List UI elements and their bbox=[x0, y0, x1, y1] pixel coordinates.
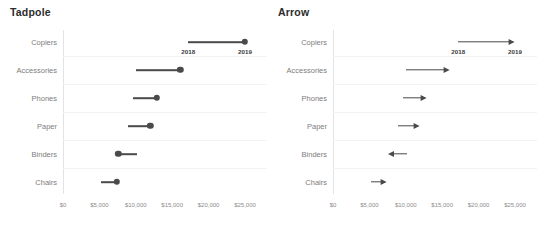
series-mark-binders bbox=[0, 147, 270, 161]
year-label-start: 2018 bbox=[451, 48, 465, 55]
arrow-head-left bbox=[388, 151, 394, 157]
arrow-head-right bbox=[444, 67, 450, 73]
x-tick-label: $10,000 bbox=[395, 202, 417, 208]
series-mark-accessories bbox=[270, 63, 540, 77]
gridline bbox=[333, 168, 537, 169]
series-mark-phones bbox=[0, 91, 270, 105]
gridline bbox=[333, 84, 537, 85]
year-label-end: 2019 bbox=[238, 48, 252, 55]
arrow-shaft bbox=[406, 69, 445, 70]
tadpole-stem bbox=[136, 69, 180, 71]
arrow-shaft bbox=[403, 97, 422, 98]
chart-panel-arrow: Arrow CopiersAccessoriesPhonesPaperBinde… bbox=[270, 0, 540, 227]
arrow-head-right bbox=[414, 123, 420, 129]
gridline bbox=[63, 112, 267, 113]
x-tick-label: $15,000 bbox=[431, 202, 453, 208]
arrow-shaft bbox=[398, 125, 416, 126]
plot-area-tadpole: CopiersAccessoriesPhonesPaperBindersChai… bbox=[0, 22, 270, 227]
series-mark-chairs bbox=[0, 175, 270, 189]
tadpole-head-dot bbox=[147, 123, 153, 129]
series-mark-paper bbox=[270, 119, 540, 133]
series-mark-accessories bbox=[0, 63, 270, 77]
charts-board: Tadpole CopiersAccessoriesPhonesPaperBin… bbox=[0, 0, 540, 227]
series-mark-paper bbox=[0, 119, 270, 133]
gridline bbox=[63, 168, 267, 169]
arrow-head-right bbox=[421, 95, 427, 101]
gridline bbox=[63, 56, 267, 57]
chart-title-arrow: Arrow bbox=[278, 6, 309, 18]
tadpole-stem bbox=[188, 41, 245, 43]
arrow-head-right bbox=[380, 179, 386, 185]
tadpole-stem bbox=[118, 153, 137, 155]
gridline bbox=[333, 140, 537, 141]
x-tick-label: $20,000 bbox=[198, 202, 220, 208]
plot-area-arrow: CopiersAccessoriesPhonesPaperBindersChai… bbox=[270, 22, 540, 227]
series-mark-phones bbox=[270, 91, 540, 105]
arrow-head-right bbox=[509, 39, 515, 45]
series-mark-chairs bbox=[270, 175, 540, 189]
gridline bbox=[63, 140, 267, 141]
gridline bbox=[63, 84, 267, 85]
series-mark-copiers bbox=[0, 35, 270, 49]
gridline bbox=[333, 56, 537, 57]
tadpole-head-dot bbox=[242, 39, 248, 45]
x-tick-label: $5,000 bbox=[90, 202, 108, 208]
x-tick-label: $10,000 bbox=[125, 202, 147, 208]
arrow-shaft bbox=[458, 41, 510, 42]
tadpole-head-dot bbox=[115, 151, 121, 157]
gridline bbox=[333, 112, 537, 113]
x-tick-label: $15,000 bbox=[161, 202, 183, 208]
x-tick-label: $5,000 bbox=[360, 202, 378, 208]
tadpole-head-dot bbox=[114, 179, 120, 185]
year-label-end: 2019 bbox=[508, 48, 522, 55]
x-tick-label: $0 bbox=[60, 202, 67, 208]
arrow-shaft bbox=[393, 153, 407, 154]
x-tick-label: $20,000 bbox=[468, 202, 490, 208]
year-label-start: 2018 bbox=[181, 48, 195, 55]
series-mark-binders bbox=[270, 147, 540, 161]
x-tick-label: $25,000 bbox=[504, 202, 526, 208]
tadpole-head-dot bbox=[177, 67, 183, 73]
x-tick-label: $25,000 bbox=[234, 202, 256, 208]
chart-title-tadpole: Tadpole bbox=[10, 6, 51, 18]
x-tick-label: $0 bbox=[330, 202, 337, 208]
tadpole-head-dot bbox=[154, 95, 160, 101]
series-mark-copiers bbox=[270, 35, 540, 49]
chart-panel-tadpole: Tadpole CopiersAccessoriesPhonesPaperBin… bbox=[0, 0, 270, 227]
